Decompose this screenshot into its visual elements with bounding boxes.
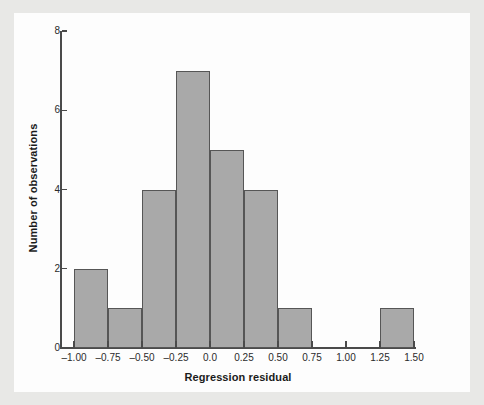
histogram-bar bbox=[380, 308, 414, 348]
x-axis-tick bbox=[311, 341, 312, 348]
x-axis-tick bbox=[277, 341, 278, 348]
histogram-plot: 02468 –1.00–0.75–0.50–0.250.00.250.500.7… bbox=[0, 0, 484, 405]
x-axis-tick bbox=[175, 341, 176, 348]
y-axis-tick-label: 4 bbox=[38, 185, 60, 195]
y-axis-tick bbox=[62, 110, 67, 111]
histogram-bar bbox=[244, 190, 278, 349]
histogram-screenshot: 02468 –1.00–0.75–0.50–0.250.00.250.500.7… bbox=[0, 0, 484, 405]
x-axis-tick bbox=[379, 341, 380, 348]
y-axis-title: Number of observations bbox=[27, 93, 39, 283]
y-axis-tick-label: 8 bbox=[38, 26, 60, 36]
y-axis-tick-label: 2 bbox=[38, 264, 60, 274]
x-axis-title: Regression residual bbox=[60, 371, 416, 383]
y-axis-tick bbox=[62, 189, 67, 190]
histogram-bar bbox=[108, 308, 142, 348]
x-axis-tick bbox=[209, 341, 210, 348]
x-axis-tick bbox=[107, 341, 108, 348]
x-axis-tick-label: 1.50 bbox=[386, 353, 442, 363]
y-axis-tick bbox=[62, 347, 67, 348]
histogram-bar bbox=[176, 71, 210, 348]
y-axis-tick-label: 6 bbox=[38, 105, 60, 115]
x-axis-tick bbox=[413, 341, 414, 348]
y-axis-tick bbox=[62, 268, 67, 269]
x-axis-tick bbox=[73, 341, 74, 348]
histogram-bar bbox=[74, 269, 108, 348]
x-axis-tick bbox=[141, 341, 142, 348]
histogram-bar bbox=[278, 308, 312, 348]
histogram-bar bbox=[210, 150, 244, 348]
x-axis-tick bbox=[345, 341, 346, 348]
y-axis-tick bbox=[62, 30, 67, 31]
histogram-bar bbox=[142, 190, 176, 349]
y-axis-tick-label: 0 bbox=[38, 343, 60, 353]
x-axis-tick bbox=[243, 341, 244, 348]
